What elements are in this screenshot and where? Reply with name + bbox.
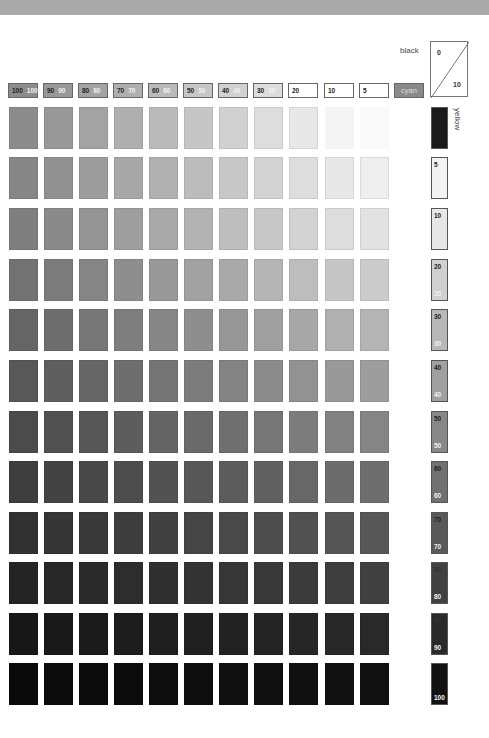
swatch-cell (114, 562, 143, 604)
swatch-cell (9, 208, 38, 250)
swatch-cell (184, 613, 213, 655)
swatch-cell (360, 259, 389, 301)
row-label-value: 5 (434, 161, 438, 168)
corner-legend: 0 10 (430, 41, 468, 97)
swatch-cell (219, 461, 248, 503)
swatch-cell (9, 663, 38, 705)
swatch-cell (254, 663, 283, 705)
row-label-value: 60 (434, 465, 441, 472)
swatch-cell (79, 259, 108, 301)
swatch-cell (9, 411, 38, 453)
swatch-cell (114, 360, 143, 402)
column-header-value-alt: 70 (128, 87, 135, 94)
column-header-40: 4040 (218, 83, 248, 98)
swatch-cell (254, 309, 283, 351)
swatch-cell (44, 512, 73, 554)
column-header-value: 10 (328, 87, 335, 94)
swatch-cell (44, 562, 73, 604)
swatch-cell (79, 157, 108, 199)
swatch-cell (254, 157, 283, 199)
swatch-cell (184, 360, 213, 402)
column-header-5: 5 (359, 83, 389, 98)
swatch-cell (79, 309, 108, 351)
column-header-50: 5050 (183, 83, 213, 98)
row-label-value: 50 (434, 415, 441, 422)
row-label-30: 3030 (431, 309, 448, 351)
column-header-value-alt: 30 (268, 87, 275, 94)
swatch-cell (79, 512, 108, 554)
row-label-value: 30 (434, 313, 441, 320)
swatch-cell (289, 360, 318, 402)
column-header-value-alt: 80 (93, 87, 100, 94)
swatch-cell (219, 360, 248, 402)
column-header-value: 20 (292, 87, 299, 94)
swatch-cell (360, 411, 389, 453)
swatch-cell (289, 259, 318, 301)
swatch-cell (149, 663, 178, 705)
swatch-cell (254, 259, 283, 301)
corner-top-value: 0 (437, 49, 441, 56)
yellow-axis-label: yellow (453, 108, 462, 130)
column-header-value-alt: 100 (27, 87, 38, 94)
column-header-value-alt: 40 (233, 87, 240, 94)
swatch-cell (360, 157, 389, 199)
swatch-cell (289, 411, 318, 453)
swatch-cell (9, 309, 38, 351)
row-label-value: 40 (434, 364, 441, 371)
swatch-cell (44, 259, 73, 301)
swatch-cell (325, 562, 354, 604)
swatch-cell (325, 208, 354, 250)
swatch-cell (44, 663, 73, 705)
swatch-cell (149, 259, 178, 301)
swatch-cell (254, 107, 283, 149)
swatch-cell (44, 157, 73, 199)
swatch-cell (44, 461, 73, 503)
swatch-cell (289, 107, 318, 149)
swatch-cell (79, 411, 108, 453)
column-header-value: 30 (257, 87, 264, 94)
swatch-cell (79, 107, 108, 149)
column-header-60: 6060 (148, 83, 178, 98)
swatch-cell (184, 309, 213, 351)
row-label-80: 8080 (431, 562, 448, 604)
swatch-cell (44, 208, 73, 250)
swatch-cell (219, 663, 248, 705)
swatch-cell (325, 461, 354, 503)
swatch-cell (289, 613, 318, 655)
swatch-cell (289, 461, 318, 503)
swatch-cell (254, 613, 283, 655)
column-header-100: 100100 (8, 83, 38, 98)
swatch-cell (254, 208, 283, 250)
column-header-80: 8080 (78, 83, 108, 98)
row-label-value: 80 (434, 566, 441, 573)
swatch-cell (114, 512, 143, 554)
swatch-cell (184, 663, 213, 705)
swatch-cell (219, 259, 248, 301)
row-label-70: 7070 (431, 512, 448, 554)
swatch-cell (325, 411, 354, 453)
swatch-cell (9, 259, 38, 301)
column-header-30: 3030 (253, 83, 283, 98)
swatch-cell (149, 208, 178, 250)
swatch-cell (114, 157, 143, 199)
swatch-cell (254, 461, 283, 503)
swatch-cell (9, 512, 38, 554)
swatch-cell (289, 663, 318, 705)
swatch-cell (149, 512, 178, 554)
swatch-cell (219, 562, 248, 604)
swatch-cell (79, 461, 108, 503)
row-label-value: 70 (434, 516, 441, 523)
column-header-value: 50 (187, 87, 194, 94)
swatch-cell (219, 107, 248, 149)
swatch-cell (184, 461, 213, 503)
column-header-70: 7070 (113, 83, 143, 98)
swatch-cell (184, 562, 213, 604)
swatch-cell (9, 613, 38, 655)
swatch-cell (149, 461, 178, 503)
swatch-cell (325, 309, 354, 351)
swatch-cell (289, 157, 318, 199)
swatch-cell (325, 512, 354, 554)
swatch-cell (44, 309, 73, 351)
swatch-cell (254, 360, 283, 402)
swatch-cell (184, 107, 213, 149)
